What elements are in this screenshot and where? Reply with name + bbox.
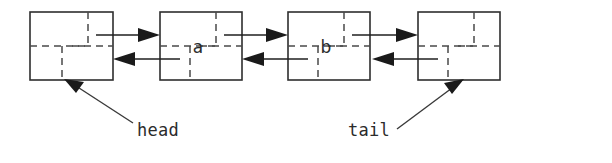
node-2-value: a	[193, 37, 203, 57]
link-3-backward-arrowhead-icon	[242, 52, 264, 66]
tail-leader-line	[397, 88, 452, 129]
node-1	[30, 12, 113, 80]
link-1-forward-arrowhead-icon	[138, 28, 160, 42]
head-arrowhead-icon	[64, 79, 84, 93]
node-3: b	[288, 12, 370, 80]
node-3-value: b	[321, 37, 332, 57]
diagram-canvas: a b	[0, 0, 612, 163]
link-2-forward-arrowhead-icon	[266, 28, 288, 42]
linked-list-diagram: a b	[0, 0, 612, 163]
node-2: a	[160, 12, 242, 80]
annotation-head: head	[64, 79, 179, 140]
link-3-forward-arrowhead-icon	[396, 28, 418, 42]
link-4-backward-arrowhead-icon	[372, 52, 394, 66]
head-label: head	[137, 120, 179, 140]
link-2-backward-arrowhead-icon	[113, 52, 135, 66]
head-leader-line	[76, 86, 133, 123]
node-4	[418, 12, 500, 80]
annotation-tail: tail	[348, 79, 464, 140]
tail-label: tail	[348, 120, 390, 140]
